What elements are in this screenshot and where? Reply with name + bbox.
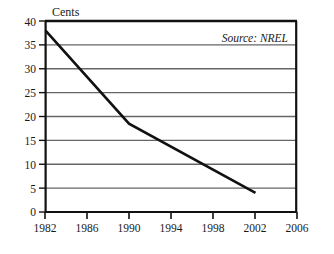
y-tick-label-35: 35: [25, 39, 37, 51]
y-tick-label-25: 25: [25, 87, 37, 99]
chart-canvas: 40 35 30 25 20 15 10 5 0 1982 1986 1990 …: [0, 0, 334, 254]
y-tick-label-15: 15: [25, 135, 37, 147]
y-tick-label-40: 40: [25, 16, 37, 28]
y-tick-label-5: 5: [30, 183, 36, 195]
y-tick-label-10: 10: [25, 159, 37, 171]
y-axis-tick-labels: 40 35 30 25 20 15 10 5 0: [25, 16, 37, 219]
x-tick-label-1994: 1994: [160, 222, 183, 234]
y-tick-label-0: 0: [30, 206, 36, 218]
line-chart-figure: 40 35 30 25 20 15 10 5 0 1982 1986 1990 …: [0, 0, 334, 254]
source-annotation: Source: NREL: [222, 32, 288, 44]
x-tick-label-2006: 2006: [286, 222, 309, 234]
y-axis-ticks: [39, 21, 45, 212]
x-axis-tick-labels: 1982 1986 1990 1994 1998 2002 2006: [34, 222, 309, 234]
x-tick-label-1986: 1986: [76, 222, 99, 234]
y-axis-unit-label: Cents: [52, 5, 80, 19]
x-tick-label-2002: 2002: [244, 222, 267, 234]
y-tick-label-30: 30: [25, 63, 37, 75]
x-tick-label-1990: 1990: [118, 222, 141, 234]
y-tick-label-20: 20: [25, 111, 37, 123]
x-axis-ticks: [45, 212, 297, 219]
x-tick-label-1982: 1982: [34, 222, 57, 234]
x-tick-label-1998: 1998: [202, 222, 225, 234]
